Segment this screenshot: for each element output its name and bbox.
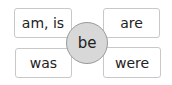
center-label: be (78, 34, 97, 52)
form-box-were: were (103, 47, 161, 78)
form-box-are: are (103, 8, 160, 38)
form-label: were (115, 55, 149, 71)
form-label: am, is (22, 15, 64, 31)
form-label: was (30, 55, 57, 71)
form-box-was: was (15, 48, 72, 78)
form-label: are (120, 15, 143, 31)
center-verb-circle: be (66, 22, 108, 64)
form-box-am-is: am, is (14, 8, 72, 38)
